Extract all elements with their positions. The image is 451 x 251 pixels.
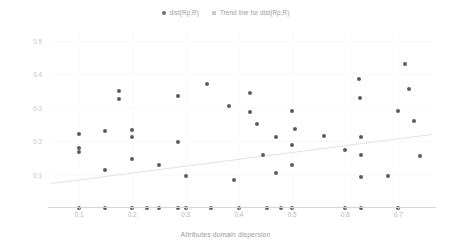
x-axis-tick (239, 207, 240, 209)
x-axis-tick-label: 0.1 (75, 211, 84, 218)
data-point[interactable] (359, 135, 363, 139)
data-point[interactable] (290, 143, 294, 147)
x-axis-tick (79, 207, 80, 209)
data-point[interactable] (359, 175, 363, 179)
data-point[interactable] (248, 91, 252, 95)
x-axis-tick (186, 207, 187, 209)
data-point[interactable] (290, 163, 294, 167)
gridline-vertical (79, 31, 80, 208)
data-point[interactable] (261, 153, 265, 157)
x-axis-tick-label: 0.4 (234, 211, 243, 218)
data-point[interactable] (103, 129, 107, 133)
data-point[interactable] (403, 62, 407, 66)
data-point[interactable] (386, 174, 390, 178)
gridline-vertical (239, 31, 240, 208)
y-axis-tick-labels: 0.10.20.30.40.5 (26, 0, 42, 251)
data-point[interactable] (357, 77, 361, 81)
data-point[interactable] (77, 132, 81, 136)
y-axis-tick-label: 0.5 (33, 38, 42, 45)
data-point[interactable] (255, 122, 259, 126)
data-point[interactable] (274, 135, 278, 139)
data-point[interactable] (358, 96, 362, 100)
x-axis-tick-label: 0.5 (288, 211, 297, 218)
gridline-horizontal (50, 108, 432, 109)
data-point[interactable] (205, 82, 209, 86)
x-axis-line (48, 207, 436, 208)
data-point[interactable] (184, 174, 188, 178)
scatter-chart: dist(Rp,R) Trend line for dist(Rp,R) 0.1… (0, 0, 451, 251)
y-axis-tick-label: 0.4 (33, 71, 42, 78)
data-point[interactable] (396, 109, 400, 113)
legend-label-trendline: Trend line for dist(Rp,R) (220, 9, 289, 16)
x-axis-tick-label: 0.3 (181, 211, 190, 218)
data-point[interactable] (227, 104, 231, 108)
data-point[interactable] (117, 89, 121, 93)
x-axis-tick (292, 207, 293, 209)
data-point[interactable] (407, 87, 411, 91)
data-point[interactable] (157, 163, 161, 167)
legend-item-trendline[interactable]: Trend line for dist(Rp,R) (212, 9, 289, 16)
gridline-vertical (132, 31, 133, 208)
data-point[interactable] (130, 157, 134, 161)
gridline-vertical (292, 31, 293, 208)
data-point[interactable] (130, 128, 134, 132)
data-point[interactable] (103, 168, 107, 172)
data-point[interactable] (117, 97, 121, 101)
circle-marker-icon (162, 11, 166, 15)
x-axis-tick-label: 0.2 (128, 211, 137, 218)
square-marker-icon (212, 11, 216, 15)
data-point[interactable] (274, 171, 278, 175)
gridline-vertical (345, 31, 346, 208)
data-point[interactable] (290, 109, 294, 113)
x-axis-title: Attributes domain dispersion (0, 231, 451, 238)
data-point[interactable] (418, 154, 422, 158)
data-point[interactable] (77, 150, 81, 154)
x-axis-tick (345, 207, 346, 209)
x-axis-tick-label: 0.7 (394, 211, 403, 218)
chart-legend: dist(Rp,R) Trend line for dist(Rp,R) (0, 9, 451, 16)
data-point[interactable] (176, 140, 180, 144)
legend-label-series: dist(Rp,R) (170, 9, 199, 16)
gridline-horizontal (50, 41, 432, 42)
plot-area (50, 31, 432, 208)
data-point[interactable] (322, 134, 326, 138)
data-point[interactable] (130, 135, 134, 139)
x-axis-tick (398, 207, 399, 209)
legend-item-series[interactable]: dist(Rp,R) (162, 9, 199, 16)
data-point[interactable] (176, 94, 180, 98)
y-axis-tick-label: 0.1 (33, 171, 42, 178)
x-axis-tick (132, 207, 133, 209)
gridline-horizontal (50, 74, 432, 75)
y-axis-tick-label: 0.3 (33, 104, 42, 111)
data-point[interactable] (248, 110, 252, 114)
data-point[interactable] (232, 178, 236, 182)
y-axis-tick-label: 0.2 (33, 138, 42, 145)
x-axis-tick-label: 0.6 (341, 211, 350, 218)
gridline-vertical (398, 31, 399, 208)
data-point[interactable] (359, 153, 363, 157)
data-point[interactable] (343, 148, 347, 152)
gridline-vertical (186, 31, 187, 208)
data-point[interactable] (412, 119, 416, 123)
data-point[interactable] (293, 127, 297, 131)
